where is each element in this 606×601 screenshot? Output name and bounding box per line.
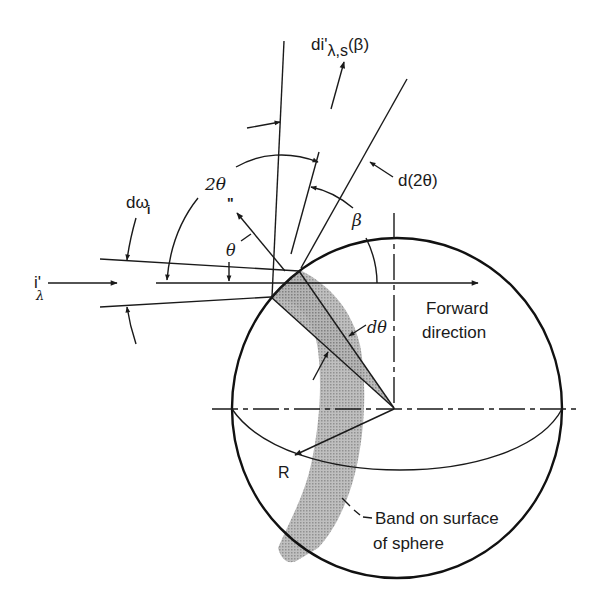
beam-bottom-line [100, 297, 271, 307]
beta-arc-lower [366, 238, 377, 283]
beta-label: β [351, 210, 362, 230]
equator-ellipse [232, 409, 562, 470]
two-theta-arc-upper [236, 155, 318, 167]
band-label-line2: of sphere [373, 534, 444, 553]
beam-top-line [100, 259, 299, 271]
scattered-ray-inner [291, 152, 319, 254]
d-theta-label: dθ [367, 318, 387, 337]
solid-angle-sub: i [147, 203, 150, 217]
theta-leader [241, 234, 251, 241]
scattered-ray-outer [301, 79, 407, 268]
two-theta-arc-lower [167, 198, 198, 280]
reflected-ray-pointer-icon [247, 122, 280, 128]
normal-mark: " [227, 195, 234, 211]
scattered-intensity-label: di'λ,s(β) [311, 35, 369, 59]
reflected-ray-line [272, 41, 284, 297]
forward-direction-line2: direction [422, 323, 486, 342]
d-two-theta-arrow-icon [370, 162, 393, 177]
solid-angle-arrow-bottom-icon [127, 307, 136, 344]
scattered-arrow-icon [331, 62, 344, 109]
normal-arrow-icon [237, 213, 285, 271]
incident-intensity-sub: λ [35, 288, 44, 303]
solid-angle-label: dω [126, 193, 149, 212]
band-label-line1: Band on surface [375, 509, 499, 528]
theta-label: θ [226, 241, 236, 260]
two-theta-label: 2θ [204, 174, 226, 194]
radius-label: R [278, 464, 290, 481]
beta-arc-upper [311, 187, 353, 208]
band-leader [342, 498, 372, 518]
forward-direction-line1: Forward [426, 299, 488, 318]
solid-angle-arrow-top-icon [127, 218, 136, 260]
d-two-theta-label: d(2θ) [398, 171, 438, 190]
sphere-scattering-diagram: " i' λ dω i 2θ θ di'λ,s(β) d(2θ) β dθ Fo… [0, 0, 606, 601]
